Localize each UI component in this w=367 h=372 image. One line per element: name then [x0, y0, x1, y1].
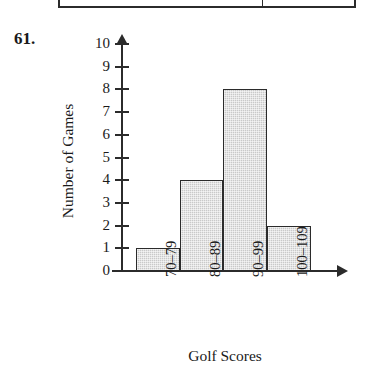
- x-axis-tick-label: 90–99: [251, 207, 266, 277]
- x-axis-tick-label: 100–109: [295, 207, 310, 277]
- x-axis-title: Golf Scores: [112, 347, 338, 365]
- x-axis-tick-label: 70–79: [164, 207, 179, 277]
- histogram-chart: 109876543210 Number of Games 70–7980–899…: [0, 0, 367, 372]
- bar-series: [0, 0, 367, 372]
- x-axis-tick-label: 80–89: [208, 207, 223, 277]
